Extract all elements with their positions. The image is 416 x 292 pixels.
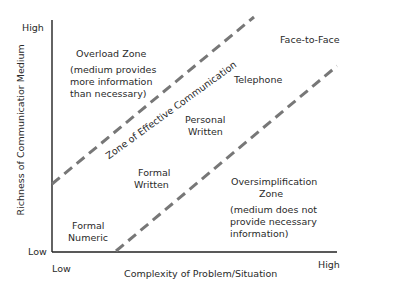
overload-zone-desc-line-2: more information xyxy=(70,76,152,88)
overload-zone-desc-line-3: than necessary) xyxy=(70,88,147,100)
face-to-face-label: Face-to-Face xyxy=(280,34,340,46)
x-axis-high-label: High xyxy=(318,259,340,271)
formal-written-line-1: Formal xyxy=(138,167,170,179)
formal-numeric-line-2: Numeric xyxy=(68,232,108,244)
formal-written-line-2: Written xyxy=(134,179,169,191)
y-axis-low-label: Low xyxy=(28,246,47,258)
y-axis-title: Richness of Communicatior Medium xyxy=(15,56,26,216)
upper-boundary-dashed-line xyxy=(52,17,254,184)
oversimplification-zone-title-line-1: Oversimplification xyxy=(231,176,317,188)
overload-zone-desc-line-1: (medium provides xyxy=(70,64,156,76)
x-axis-low-label: Low xyxy=(52,263,71,275)
personal-written-line-2: Written xyxy=(188,126,223,138)
oversimplification-zone-title-line-2: Zone xyxy=(259,188,283,200)
oversimplification-zone-desc-line-3: information) xyxy=(230,228,289,240)
diagram-canvas xyxy=(0,0,416,292)
telephone-label: Telephone xyxy=(234,74,282,86)
x-axis-title: Complexity of Problem/Situation xyxy=(124,268,277,280)
oversimplification-zone-desc-line-2: provide necessary xyxy=(230,216,317,228)
formal-numeric-line-1: Formal xyxy=(72,220,104,232)
personal-written-line-1: Personal xyxy=(185,114,225,126)
oversimplification-zone-desc-line-1: (medium does not xyxy=(230,204,317,216)
y-axis-high-label: High xyxy=(22,22,44,34)
overload-zone-title: Overload Zone xyxy=(76,48,146,60)
